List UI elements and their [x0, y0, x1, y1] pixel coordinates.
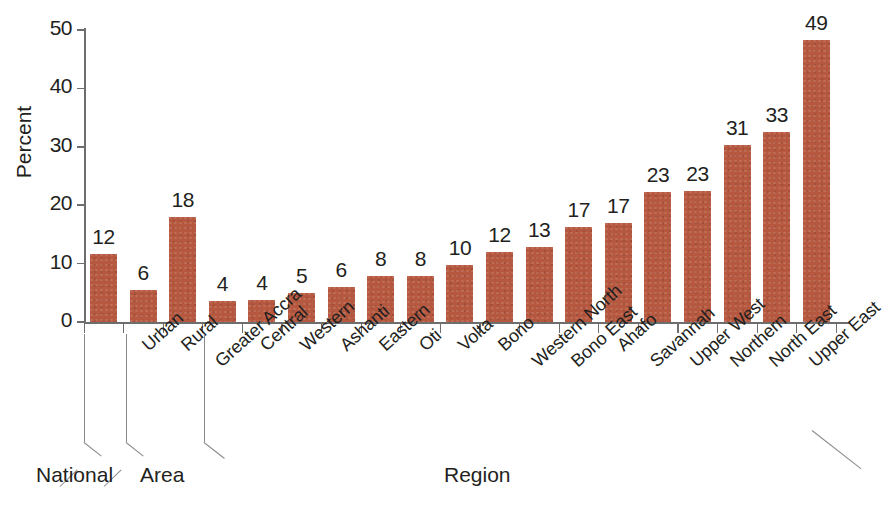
y-tick-label: 50	[20, 16, 72, 40]
y-tick-label: 20	[20, 191, 72, 215]
y-tick	[77, 146, 84, 148]
y-tick	[77, 321, 84, 323]
bar	[130, 290, 157, 322]
bracket-national-right-tail	[126, 442, 144, 456]
bar-value-label: 18	[157, 188, 208, 212]
group-label-national: National	[36, 463, 113, 487]
bracket-region-right-tail	[812, 430, 862, 469]
bar	[486, 252, 513, 322]
bar	[684, 191, 711, 322]
y-tick	[77, 263, 84, 265]
group-label-area: Area	[140, 463, 184, 487]
y-tick-label: 10	[20, 250, 72, 274]
x-tick	[440, 322, 441, 333]
bar-value-label: 23	[672, 162, 723, 186]
bar	[446, 265, 473, 322]
bar	[90, 254, 117, 322]
bar	[644, 192, 671, 322]
bracket-national-left-tail	[84, 442, 102, 456]
bar-value-label: 33	[751, 103, 802, 127]
bar-value-label: 12	[78, 225, 129, 249]
x-tick	[84, 322, 85, 333]
bar	[763, 132, 790, 322]
y-tick	[77, 88, 84, 90]
y-tick-label: 30	[20, 133, 72, 157]
bar-value-label: 49	[791, 11, 842, 35]
y-tick	[77, 204, 84, 206]
bracket-national-right	[126, 334, 127, 442]
y-tick-label: 40	[20, 74, 72, 98]
y-tick-label: 0	[20, 308, 72, 332]
x-axis-title: Region	[444, 463, 511, 487]
bar-value-label: 6	[118, 261, 169, 285]
y-tick	[77, 29, 84, 31]
bracket-national-left	[84, 334, 85, 442]
bar	[803, 40, 830, 322]
bracket-area-right-tail	[204, 442, 225, 459]
bar	[526, 247, 553, 322]
bar	[169, 217, 196, 322]
bar	[724, 145, 751, 322]
x-tick	[123, 322, 124, 333]
y-axis-line	[84, 28, 86, 324]
bar-value-label: 17	[593, 194, 644, 218]
bracket-area-right	[204, 334, 205, 442]
